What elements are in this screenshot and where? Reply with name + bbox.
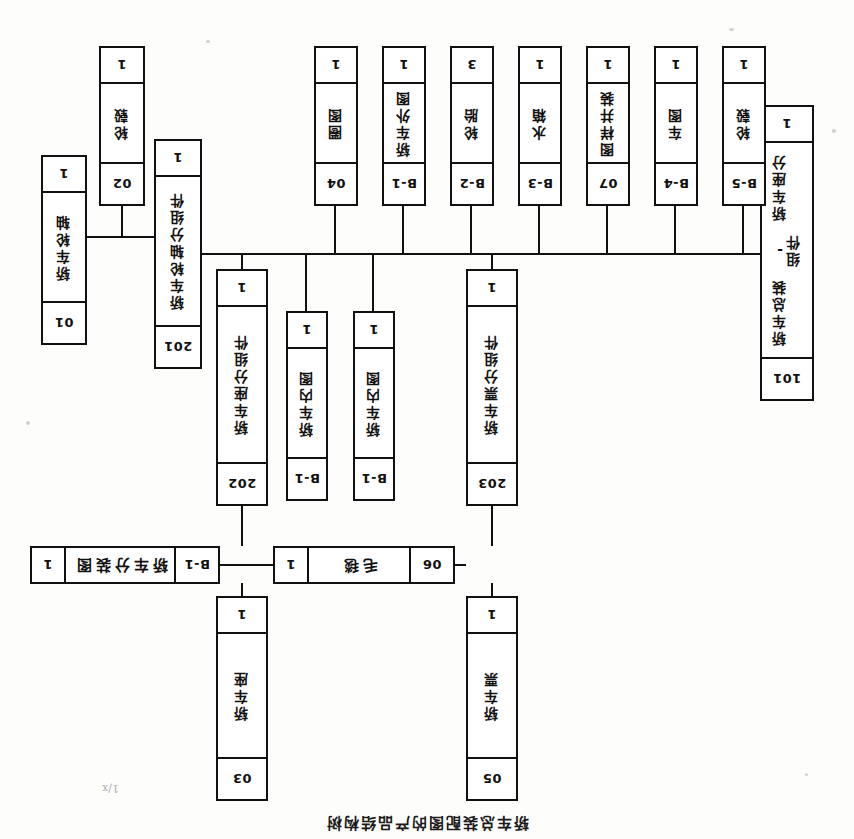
node-name: 轿车内图 bbox=[288, 349, 326, 459]
connector-line bbox=[202, 253, 760, 255]
bom-node[interactable]: 01轿车轮轴1 bbox=[41, 155, 87, 345]
bom-node[interactable]: B-5轮毂1 bbox=[722, 46, 766, 206]
node-name: 轿车内图 bbox=[355, 349, 393, 459]
connector-line bbox=[538, 206, 540, 255]
connector-line bbox=[220, 564, 273, 566]
node-quantity: 1 bbox=[762, 107, 812, 143]
corner-scribble-mark: 1/x bbox=[102, 782, 119, 795]
node-code: B-4 bbox=[656, 164, 696, 204]
connector-line bbox=[334, 206, 336, 255]
node-name: 轿车总装 - 轿车座分组件 bbox=[762, 143, 812, 359]
bom-node[interactable]: B-3水箱1 bbox=[518, 46, 562, 206]
node-name: 轿车票分组件 bbox=[468, 307, 516, 464]
connector-line bbox=[674, 206, 676, 255]
bom-node[interactable]: B-2轮胎3 bbox=[450, 46, 494, 206]
node-code: 203 bbox=[468, 464, 516, 504]
node-name: 轿车轮轴 bbox=[43, 193, 85, 303]
scan-speck bbox=[729, 28, 734, 31]
bom-node[interactable]: B-1轿车内图1 bbox=[353, 311, 395, 501]
bom-node[interactable]: B-1轿车外图1 bbox=[382, 46, 426, 206]
node-quantity: 1 bbox=[218, 271, 266, 307]
node-code: 07 bbox=[588, 164, 628, 204]
node-code: B-1 bbox=[176, 548, 218, 582]
connector-line bbox=[606, 206, 608, 255]
bom-node[interactable]: 04圈图1 bbox=[314, 46, 358, 206]
node-quantity: 1 bbox=[355, 313, 393, 349]
node-quantity: 1 bbox=[43, 157, 85, 193]
diagram-canvas: 轿车总装配图的产品结构树 1/x 05轿车票103轿车座106毛毯1B-1轿车分… bbox=[0, 0, 854, 839]
node-quantity: 1 bbox=[520, 48, 560, 84]
node-name: 轿车座分组件 bbox=[218, 307, 266, 464]
node-name: 圈图 bbox=[316, 84, 356, 164]
node-quantity: 1 bbox=[656, 48, 696, 84]
node-quantity: 1 bbox=[588, 48, 628, 84]
connector-line bbox=[491, 506, 493, 546]
node-code: 02 bbox=[101, 164, 143, 204]
connector-line bbox=[402, 206, 404, 255]
scanned-page: 轿车总装配图的产品结构树 1/x 05轿车票103轿车座106毛毯1B-1轿车分… bbox=[0, 0, 854, 839]
bom-node[interactable]: 06毛毯1 bbox=[273, 546, 455, 584]
node-code: B-3 bbox=[520, 164, 560, 204]
connector-line bbox=[742, 206, 744, 255]
bom-node[interactable]: 201轿车轮轴分组件1 bbox=[154, 139, 202, 369]
node-quantity: 1 bbox=[101, 48, 143, 84]
connector-line bbox=[372, 255, 374, 311]
node-name: 毛毯 bbox=[309, 548, 411, 582]
node-code: 05 bbox=[468, 759, 516, 799]
node-quantity: 1 bbox=[218, 598, 266, 634]
node-quantity: 1 bbox=[156, 141, 200, 177]
bom-node[interactable]: 03轿车座1 bbox=[216, 596, 268, 801]
node-name: 轿车座 bbox=[218, 634, 266, 759]
node-name: 轿车轮轴分组件 bbox=[156, 177, 200, 327]
bom-node[interactable]: B-4车图1 bbox=[654, 46, 698, 206]
bom-node[interactable]: 07图样并装1 bbox=[586, 46, 630, 206]
connector-line bbox=[455, 564, 466, 566]
node-name: 轿车票 bbox=[468, 634, 516, 759]
node-name: 图样并装 bbox=[588, 84, 628, 164]
bom-node[interactable]: 02轮毂1 bbox=[99, 46, 145, 206]
node-quantity: 1 bbox=[724, 48, 764, 84]
node-quantity: 1 bbox=[275, 548, 309, 582]
scan-speck bbox=[805, 773, 808, 776]
node-code: B-2 bbox=[452, 164, 492, 204]
node-name: 轿车外图 bbox=[384, 84, 424, 164]
scan-speck bbox=[206, 40, 210, 43]
node-code: 101 bbox=[762, 359, 812, 399]
node-code: 01 bbox=[43, 303, 85, 343]
node-name: 轮毂 bbox=[724, 84, 764, 164]
node-code: 04 bbox=[316, 164, 356, 204]
node-code: 06 bbox=[411, 548, 453, 582]
scan-speck bbox=[26, 421, 30, 425]
node-name: 轮胎 bbox=[452, 84, 492, 164]
bom-node[interactable]: B-1轿车分装图1 bbox=[30, 546, 220, 584]
connector-line bbox=[470, 206, 472, 255]
node-quantity: 1 bbox=[468, 598, 516, 634]
node-quantity: 1 bbox=[316, 48, 356, 84]
node-name: 轿车分装图 bbox=[66, 548, 176, 582]
node-code: 202 bbox=[218, 464, 266, 504]
node-quantity: 1 bbox=[384, 48, 424, 84]
node-code: 201 bbox=[156, 327, 200, 367]
bom-node[interactable]: 202轿车座分组件1 bbox=[216, 269, 268, 506]
node-code: 03 bbox=[218, 759, 266, 799]
bom-node[interactable]: 05轿车票1 bbox=[466, 596, 518, 801]
node-code: B-5 bbox=[724, 164, 764, 204]
node-quantity: 3 bbox=[452, 48, 492, 84]
bom-node[interactable]: 101轿车总装 - 轿车座分组件1 bbox=[760, 105, 814, 401]
connector-line bbox=[121, 206, 123, 238]
connector-line bbox=[305, 255, 307, 311]
node-quantity: 1 bbox=[32, 548, 66, 582]
connector-line bbox=[491, 255, 493, 269]
bom-node[interactable]: 203轿车票分组件1 bbox=[466, 269, 518, 506]
node-quantity: 1 bbox=[468, 271, 516, 307]
connector-line bbox=[491, 583, 493, 596]
node-code: B-1 bbox=[288, 459, 326, 499]
page-title: 轿车总装配图的产品结构树 bbox=[0, 814, 854, 835]
node-code: B-1 bbox=[355, 459, 393, 499]
node-code: B-1 bbox=[384, 164, 424, 204]
scan-speck bbox=[832, 129, 836, 133]
connector-line bbox=[241, 583, 243, 596]
node-name: 轮毂 bbox=[101, 84, 143, 164]
bom-node[interactable]: B-1轿车内图1 bbox=[286, 311, 328, 501]
connector-line bbox=[241, 506, 243, 546]
